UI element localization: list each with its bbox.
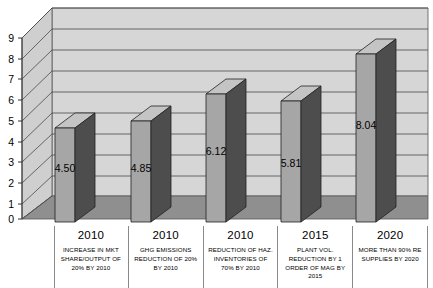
category-description: MORE THAN 90% RE SUPPLIES BY 2020 (353, 246, 427, 264)
y-axis-tick-4: 4 (0, 137, 14, 148)
category-description: REDUCTION OF HAZ. INVENTORIES OF 70% BY … (204, 246, 278, 272)
bar-value-2: 4.85 (124, 163, 158, 174)
y-axis-tick-3: 3 (0, 157, 14, 168)
y-axis-tick-7: 7 (0, 74, 14, 85)
y-axis-tick-6: 6 (0, 95, 14, 106)
y-axis-tick-8: 8 (0, 54, 14, 65)
category-description: INCREASE IN MKT SHARE/OUTPUT OF 20% BY 2… (54, 246, 128, 272)
bar-side-face (376, 39, 396, 222)
bar-value-5: 8.04 (349, 120, 383, 131)
y-axis-tick-1: 1 (0, 199, 14, 210)
category-year: 2010 (227, 229, 253, 241)
bar-value-4: 5.81 (274, 158, 308, 169)
category-description: PLANT VOL. REDUCTION BY 1 ORDER OF MAG B… (278, 246, 352, 281)
bar-front-face (206, 94, 226, 222)
table-row: 2020 MORE THAN 90% RE SUPPLIES BY 2020 (353, 226, 428, 288)
table-row: 2010 INCREASE IN MKT SHARE/OUTPUT OF 20%… (54, 226, 129, 288)
chart-y-ticks (18, 38, 22, 219)
category-year: 2020 (377, 229, 403, 241)
y-axis-tick-5: 5 (0, 116, 14, 127)
chart-bar-4 (281, 86, 321, 222)
category-table: 2010 INCREASE IN MKT SHARE/OUTPUT OF 20%… (54, 226, 428, 288)
category-year: 2010 (78, 229, 104, 241)
bar-front-face (55, 128, 75, 222)
chart-left-wall (22, 8, 52, 219)
bar-chart-figure: 9 8 7 6 5 4 3 2 1 0 4.50 4.85 6.12 5.81 … (0, 0, 433, 288)
chart-plot-area: 9 8 7 6 5 4 3 2 1 0 4.50 4.85 6.12 5.81 … (0, 0, 433, 226)
bar-side-face (301, 86, 321, 222)
category-year: 2010 (153, 229, 179, 241)
category-description: GHG EMISSIONS REDUCTION OF 20% BY 2010 (129, 246, 203, 272)
bar-value-3: 6.12 (199, 146, 233, 157)
bar-value-1: 4.50 (48, 163, 82, 174)
y-axis-tick-0: 0 (0, 214, 14, 225)
table-row: 2015 PLANT VOL. REDUCTION BY 1 ORDER OF … (278, 226, 353, 288)
y-axis-tick-9: 9 (0, 33, 14, 44)
chart-3d-canvas (0, 0, 433, 226)
table-row: 2010 REDUCTION OF HAZ. INVENTORIES OF 70… (204, 226, 279, 288)
category-year: 2015 (302, 229, 328, 241)
table-row: 2010 GHG EMISSIONS REDUCTION OF 20% BY 2… (129, 226, 204, 288)
bar-front-face (356, 54, 376, 222)
y-axis-tick-2: 2 (0, 178, 14, 189)
